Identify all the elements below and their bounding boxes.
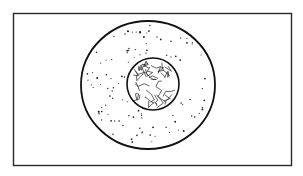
diagram-frame bbox=[14, 14, 292, 166]
nucleus bbox=[127, 58, 179, 110]
cell-diagram bbox=[0, 0, 303, 176]
nucleus-chromatin-texture bbox=[131, 61, 175, 108]
cytoplasm-dots bbox=[87, 25, 206, 143]
